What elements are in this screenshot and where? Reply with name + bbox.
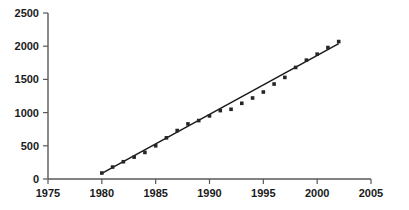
data-point-marker [165, 136, 169, 140]
y-tick-label: 1500 [15, 73, 39, 85]
data-point-marker [218, 109, 222, 113]
y-tick-label: 2000 [15, 40, 39, 52]
x-tick-label: 2000 [305, 187, 329, 199]
data-point-marker [272, 82, 276, 86]
trend-line [102, 44, 339, 174]
x-axis-group: 1975198019851990199520002005 [36, 179, 383, 199]
x-tick-label: 2005 [359, 187, 383, 199]
y-tick-label: 1000 [15, 107, 39, 119]
data-point-marker [208, 114, 212, 118]
data-point-marker [305, 58, 309, 62]
trend-line-group [102, 44, 339, 174]
data-point-marker [262, 90, 266, 94]
x-tick-label: 1990 [197, 187, 221, 199]
y-tick-label: 500 [21, 140, 39, 152]
x-axis-ticks [48, 179, 371, 184]
data-point-marker [326, 46, 330, 50]
y-axis-tick-labels: 05001000150020002500 [15, 7, 39, 185]
data-point-marker [197, 119, 201, 123]
x-tick-label: 1985 [143, 187, 167, 199]
data-point-marker [132, 155, 136, 159]
data-point-marker [100, 171, 104, 175]
x-tick-label: 1975 [36, 187, 60, 199]
data-point-marker [122, 160, 126, 164]
y-axis-group: 05001000150020002500 [15, 7, 48, 185]
x-tick-label: 1995 [251, 187, 275, 199]
data-point-marker [283, 76, 287, 80]
y-tick-label: 2500 [15, 7, 39, 19]
data-point-marker [154, 144, 158, 148]
data-point-marker [337, 40, 341, 44]
data-point-marker [143, 151, 147, 155]
data-point-marker [186, 122, 190, 126]
data-point-marker [240, 102, 244, 106]
data-point-marker [315, 52, 319, 56]
y-axis-ticks [43, 13, 48, 179]
data-point-marker [175, 129, 179, 133]
x-axis-tick-labels: 1975198019851990199520002005 [36, 187, 383, 199]
data-point-marker [294, 66, 298, 70]
y-tick-label: 0 [33, 173, 39, 185]
scatter-plot-svg: 05001000150020002500 1975198019851990199… [0, 0, 409, 210]
x-tick-label: 1980 [90, 187, 114, 199]
chart-figure: 05001000150020002500 1975198019851990199… [0, 0, 409, 210]
data-point-marker [251, 96, 255, 100]
data-point-marker [111, 165, 115, 169]
data-point-marker [229, 107, 233, 111]
